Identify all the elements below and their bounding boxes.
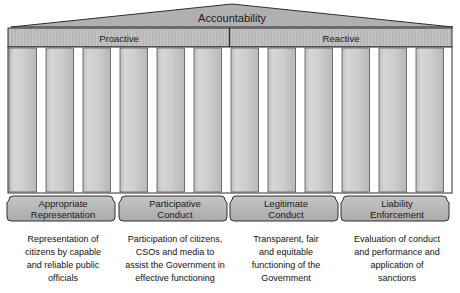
- pillar-column: [416, 48, 444, 192]
- base-box-participative-conduct[interactable]: Participative Conduct: [119, 196, 227, 221]
- frieze-label-proactive: Proactive: [99, 33, 139, 44]
- base-box-appropriate-representation[interactable]: Appropriate Representation: [7, 196, 115, 221]
- caption-line: sanctions: [378, 273, 417, 283]
- pillar-column: [9, 48, 37, 192]
- caption-line: Evaluation of conduct: [354, 234, 441, 244]
- caption-line: Participation of citizens,: [128, 234, 223, 244]
- caption-line: Government: [261, 273, 311, 283]
- base-box-title-line2: Conduct: [268, 209, 304, 220]
- base-box-title-line1: Legitimate: [264, 198, 308, 209]
- pillar-column: [305, 48, 333, 192]
- temple-graphic: Accountability Proactive Reactive: [0, 0, 460, 293]
- base-box-legitimate-conduct[interactable]: Legitimate Conduct: [230, 196, 338, 221]
- pillar-column: [231, 48, 259, 192]
- base-box-title-line1: Liability: [381, 198, 413, 209]
- pillar-column: [120, 48, 148, 192]
- caption-line: application of: [370, 260, 424, 270]
- caption-line: and reliable public: [27, 260, 100, 270]
- base-box-title-line2: Representation: [31, 209, 95, 220]
- caption-line: functioning of the: [252, 260, 321, 270]
- column-field: [8, 47, 452, 193]
- base-box-title-line1: Participative: [149, 198, 201, 209]
- frieze-label-reactive: Reactive: [323, 33, 360, 44]
- caption-line: citizens by capable: [25, 247, 101, 257]
- caption-line: CSOs and media to: [136, 247, 215, 257]
- pediment-label: Accountability: [198, 12, 266, 24]
- pillar-column: [268, 48, 296, 192]
- caption-line: officials: [48, 273, 78, 283]
- base-box-title-line2: Conduct: [157, 209, 193, 220]
- pillar-column: [157, 48, 185, 192]
- pillar-column: [46, 48, 74, 192]
- pillar-column: [379, 48, 407, 192]
- caption-line: Transparent, fair: [253, 234, 319, 244]
- caption-line: Representation of: [27, 234, 99, 244]
- pillar-column: [342, 48, 370, 192]
- pillar-column: [83, 48, 111, 192]
- caption-line: and performance and: [354, 247, 440, 257]
- caption-line: and equitable: [259, 247, 313, 257]
- caption-line: effective functioning: [135, 273, 214, 283]
- base-box-title-line2: Enforcement: [370, 209, 424, 220]
- base-box-title-line1: Appropriate: [38, 198, 87, 209]
- caption-line: assist the Government in: [125, 260, 225, 270]
- pillar-column: [194, 48, 222, 192]
- frieze-band: Proactive Reactive: [8, 28, 452, 47]
- base-box-liability-enforcement[interactable]: Liability Enforcement: [341, 196, 449, 221]
